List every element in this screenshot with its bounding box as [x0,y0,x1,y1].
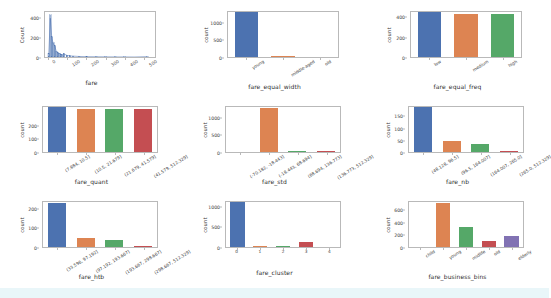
y-tick-label: 500 [211,133,220,138]
chart-panel-fare-std: 05001000count(-70.182, -18.443](-18.443,… [183,95,366,190]
x-tick-label: (164.007, 265.0] [489,154,522,177]
y-tick-mark [37,153,39,154]
y-tick-mark [405,17,407,18]
x-tick-label: child [424,249,435,259]
x-tick-label: 100 [71,59,81,68]
y-tick-mark [220,135,222,136]
x-axis-ticks: childyoungmidlifeoldelderly [408,249,524,275]
bar [77,109,95,152]
x-tick-mark [246,58,247,60]
bar [500,151,518,152]
plot-axes-fare-equal-width [227,11,339,58]
plot-axes-fare-quant [42,106,158,153]
x-tick-mark [512,248,513,250]
x-tick-mark [86,58,87,60]
y-tick-label: 200 [396,35,405,40]
x-tick-mark [115,153,116,155]
plot-axes-fare-htb [42,201,158,248]
y-tick-label: 400 [396,15,405,20]
y-tick-mark [220,153,222,154]
x-tick-label: (7.884, 10.5] [64,154,90,173]
y-tick-label: 500 [211,225,220,230]
y-tick-mark [403,222,405,223]
x-tick-mark [144,248,145,250]
plot-area [226,202,340,247]
x-axis-label: fare_equal_width [183,83,366,90]
x-tick-mark [115,248,116,250]
bar [459,227,473,247]
y-tick-mark [220,206,222,207]
bar [231,152,249,153]
bar [235,12,258,57]
bar [308,57,331,58]
y-tick-mark [222,58,224,59]
plot-axes-fare-cluster [225,201,341,248]
x-axis-label: fare_equal_freq [366,83,549,90]
bar [436,203,450,247]
x-tick-mark [240,153,241,155]
x-tick-mark [329,248,330,250]
y-tick-mark [403,235,405,236]
x-tick-mark [481,153,482,155]
y-tick-mark [37,208,39,209]
bar [288,151,306,152]
x-tick-mark [283,58,284,60]
y-tick-label: 200 [30,36,39,41]
bar [454,14,477,57]
chart-panel-fare-equal-width: 05001000countyoungmiddle-agedoldfare_equ… [183,0,366,95]
x-axis-ticks: youngmiddle-agedold [227,59,339,85]
x-tick-label: (96.5, 164.007] [460,154,491,176]
y-tick-mark [405,37,407,38]
x-tick-mark [67,58,68,60]
y-tick-mark [37,228,39,229]
plot-axes-fare-nb [408,106,524,153]
chart-panel-fare-cluster: 05001000count01234fare_cluster [183,190,366,285]
x-tick-label: 200 [91,59,101,68]
y-tick-mark [37,125,39,126]
plot-axes-fare-histogram [44,11,156,58]
x-tick-label: 0 [51,59,56,65]
bar [260,108,278,152]
x-tick-label: high [508,59,519,68]
figure-bottom-band [0,288,549,298]
plot-axes-fare-std [225,106,341,153]
y-tick-label: 100 [28,226,37,231]
y-axis-ticks: 05001000 [183,11,224,58]
y-tick-mark [39,18,41,19]
x-tick-mark [327,153,328,155]
y-axis-ticks: 0100200 [0,201,39,248]
y-tick-label: 400 [394,220,403,225]
x-tick-label: (33.596, 97.192] [65,249,98,272]
plot-area [43,202,157,247]
y-axis-ticks: 0100200 [0,106,39,153]
bar [271,56,294,57]
chart-panel-fare-htb: 0100200count(33.596, 97.192](97.192, 193… [0,190,183,285]
x-tick-mark [443,248,444,250]
plot-area [409,107,523,152]
x-tick-mark [320,58,321,60]
y-tick-mark [220,117,222,118]
y-axis-ticks: 05001000 [183,201,222,248]
y-tick-mark [403,153,405,154]
y-tick-label: 150 [394,114,403,119]
x-tick-mark [429,58,430,60]
x-tick-label: low [433,59,442,67]
x-axis-label: fare [0,79,183,86]
x-tick-mark [452,153,453,155]
chart-panel-fare-histogram: 0200400Count0100200300400500fare [0,0,183,95]
y-tick-mark [37,248,39,249]
y-tick-mark [403,140,405,141]
bar [105,109,123,152]
x-tick-label: 500 [149,59,159,68]
y-tick-mark [220,248,222,249]
x-axis-ticks: (33.596, 97.192](97.192, 193.667](193.66… [42,249,158,275]
x-tick-label: middle-aged [290,59,316,78]
y-tick-mark [39,58,41,59]
y-axis-ticks: 050100150 [366,106,405,153]
x-tick-mark [48,58,49,60]
x-tick-mark [106,58,107,60]
x-tick-mark [466,58,467,60]
x-axis-ticks: lowmediumhigh [410,59,522,85]
x-tick-mark [86,153,87,155]
